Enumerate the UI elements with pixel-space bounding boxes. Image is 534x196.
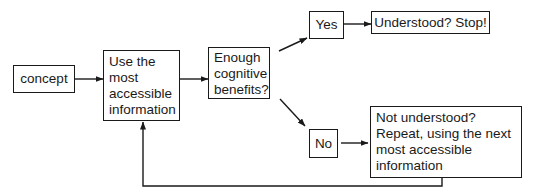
node-line: benefits? [214, 82, 264, 98]
node-understood-stop: Understood? Stop! [371, 11, 490, 34]
arrow-enough-to-yes [279, 38, 307, 51]
node-not-understood-repeat: Not understood? Repeat, using the next m… [370, 106, 522, 178]
node-line: cognitive [214, 66, 264, 82]
arrow-enough-to-no [280, 99, 305, 126]
node-line: most accessible [376, 142, 516, 158]
node-line: accessible [109, 86, 174, 102]
node-line: most [109, 70, 174, 86]
node-line: Use the [109, 54, 174, 70]
node-line: information [376, 158, 516, 174]
node-concept: concept [13, 65, 75, 93]
node-no: No [309, 129, 338, 158]
node-yes-label: Yes [315, 17, 337, 33]
node-line: Enough [214, 50, 264, 66]
node-enough-cognitive-benefits: Enough cognitive benefits? [208, 47, 270, 99]
flowchart: concept Use the most accessible informat… [0, 0, 534, 196]
node-no-label: No [315, 136, 332, 152]
node-yes: Yes [309, 11, 344, 39]
node-use-accessible-information: Use the most accessible information [103, 50, 180, 121]
node-line: Not understood? [376, 110, 516, 126]
node-concept-label: concept [20, 71, 67, 87]
node-line: Repeat, using the next [376, 126, 516, 142]
node-stop-label: Understood? Stop! [374, 15, 487, 31]
node-line: information [109, 102, 174, 118]
